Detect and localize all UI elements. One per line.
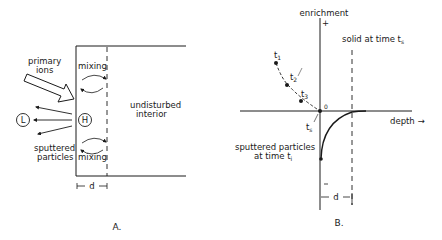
t2-tick xyxy=(298,68,302,76)
point-t2 xyxy=(285,83,289,87)
solid-at-time-ts-label: solid at time ts xyxy=(342,34,404,45)
primary-ion-arrow-icon xyxy=(24,74,74,102)
depth-d-label: d xyxy=(89,181,94,191)
panel-a-caption: A. xyxy=(113,222,122,232)
enrichment-axis-label: enrichment xyxy=(300,8,349,18)
panel-b: enrichment + depth → 0 solid at time ts … xyxy=(235,8,425,228)
mixing-top-label: mixing xyxy=(78,61,107,71)
primary-ions-label-2: ions xyxy=(36,65,54,75)
panel-a: primary ions mixing H L mixing sputtered… xyxy=(17,46,187,232)
depth-axis-label: depth → xyxy=(390,116,425,126)
point-t1 xyxy=(274,61,278,65)
sputter-arrow-upper-icon xyxy=(36,107,72,114)
sputtered-depth-profile-curve xyxy=(321,111,366,159)
plus-sign: + xyxy=(322,18,329,28)
ts-label: ts xyxy=(306,122,312,133)
mixing-arrow-bottom-icon xyxy=(82,138,106,143)
t3-label: t3 xyxy=(301,89,308,100)
point-profile-start xyxy=(319,157,323,161)
origin-label: 0 xyxy=(324,103,328,110)
light-species-label: L xyxy=(21,115,26,125)
undisturbed-interior-label-2: interior xyxy=(136,109,167,119)
ts-pointer xyxy=(314,114,318,122)
point-origin xyxy=(318,109,322,113)
mixing-arrow-top-return-icon xyxy=(81,88,103,93)
depth-d-label-b: d xyxy=(333,192,338,202)
t2-label: t2 xyxy=(290,72,297,83)
sputter-arrow-lower-icon xyxy=(38,126,72,134)
panel-b-caption: B. xyxy=(334,218,343,228)
mixing-arrow-top-icon xyxy=(82,75,106,80)
sputtered-particles-time-label-2: at time ti xyxy=(254,151,292,162)
heavy-species-label: H xyxy=(82,115,88,125)
sputtering-diagram: primary ions mixing H L mixing sputtered… xyxy=(0,0,442,240)
surface-enrichment-trajectory xyxy=(276,63,320,111)
sputtered-particles-label-2: particles xyxy=(37,152,74,162)
point-t3 xyxy=(299,99,303,103)
t1-label: t1 xyxy=(274,50,281,61)
mixing-bottom-label: mixing xyxy=(78,152,107,162)
